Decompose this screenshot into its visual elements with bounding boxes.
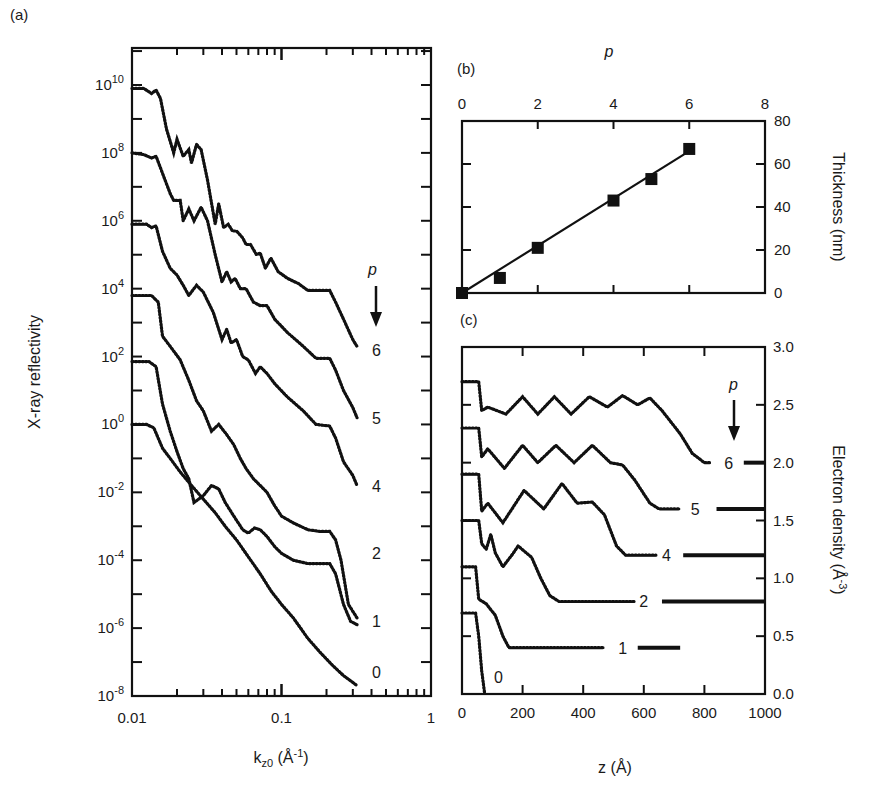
y-tick-label: 10-2: [98, 480, 124, 500]
x-tick-label: 800: [692, 704, 717, 721]
thickness-data: [456, 143, 695, 299]
x-tick-label: 0.1: [271, 709, 292, 726]
y-tick-label: 10-6: [98, 616, 124, 636]
x-tick-label: 200: [510, 704, 535, 721]
y-axis-label-thickness: Thickness (nm): [830, 152, 847, 261]
x-tick-label: 2: [534, 95, 542, 112]
panel-label-c: (c): [460, 311, 478, 328]
curve-label-p4: 4: [372, 478, 381, 495]
density-points-p2: [462, 521, 635, 602]
density-points-p4: [462, 474, 656, 555]
y-tick-label: 100: [101, 412, 124, 432]
y-tick-label: 104: [101, 277, 124, 297]
curve-label-p2: 2: [372, 545, 381, 562]
reflectivity-data-p4: [132, 224, 357, 485]
reflectivity-curve-p5: [132, 153, 357, 418]
data-point-square: [683, 143, 695, 155]
x-axis-label-p: p: [604, 43, 614, 60]
y-tick-label: 102: [101, 345, 124, 365]
x-tick-label: 0: [458, 95, 466, 112]
panel-b-frame: [462, 121, 765, 293]
panel-label-b: (b): [457, 60, 475, 77]
panel-a-reflectivity-plot: (a) 654210 101010810610410210010-210-410…: [10, 6, 435, 769]
y-tick-label: 1010: [95, 73, 124, 93]
y-tick-label: 0.5: [773, 627, 794, 644]
reflectivity-data-p1: [132, 362, 357, 625]
panel-c-electron-density-plot: (c) 654210 020040060080010000.00.51.01.5…: [458, 311, 849, 776]
reflectivity-curve-p4: [132, 224, 357, 485]
data-point-square: [608, 195, 620, 207]
data-point-square: [645, 173, 657, 185]
x-axis-label-kz0: kz0 (Å-1): [253, 747, 308, 769]
y-tick-label: 2.5: [773, 396, 794, 413]
y-tick-label: 2.0: [773, 454, 794, 471]
y-axis-label-electron-density: Electron density (Å-3): [830, 445, 849, 594]
data-point-square: [494, 272, 506, 284]
y-tick-label: 60: [774, 155, 791, 172]
x-axis-label-z: z (Å): [598, 758, 632, 776]
y-tick-label: 1.5: [773, 512, 794, 529]
x-tick-label: 600: [631, 704, 656, 721]
y-tick-label: 108: [101, 141, 124, 161]
curve-label-p0: 0: [372, 664, 381, 681]
y-tick-label: 20: [774, 241, 791, 258]
profile-label-p5: 5: [691, 501, 700, 518]
x-tick-label: 4: [609, 95, 617, 112]
profile-label-p1: 1: [618, 640, 627, 657]
panel-a-legend: p: [367, 261, 382, 327]
panel-a-ticks: 101010810610410210010-210-410-610-80.010…: [95, 48, 435, 726]
x-tick-label: 400: [571, 704, 596, 721]
panel-label-a: (a): [10, 6, 28, 23]
down-arrow-icon: [370, 286, 382, 327]
figure: (a) 654210 101010810610410210010-210-410…: [0, 0, 888, 803]
x-tick-label: 0: [458, 704, 466, 721]
y-tick-label: 0: [774, 284, 782, 301]
linear-fit-line: [462, 151, 689, 293]
profile-label-p0: 0: [494, 669, 503, 686]
reflectivity-curve-p1: [132, 362, 357, 625]
reflectivity-curves: 654210: [132, 88, 381, 685]
y-tick-label: 80: [774, 112, 791, 129]
panel-c-ticks: 020040060080010000.00.51.01.52.02.53.0: [458, 338, 794, 721]
x-tick-label: 1000: [748, 704, 781, 721]
y-tick-label: 10-8: [98, 684, 124, 704]
y-tick-label: 40: [774, 198, 791, 215]
reflectivity-data-p5: [132, 153, 357, 418]
x-tick-label: 6: [685, 95, 693, 112]
legend-p-symbol-c: p: [728, 376, 738, 393]
data-point-square: [532, 242, 544, 254]
x-tick-label: 0.01: [117, 709, 146, 726]
y-tick-label: 106: [101, 209, 124, 229]
panel-c-legend: p: [728, 376, 740, 441]
curve-label-p6: 6: [372, 342, 381, 359]
legend-p-symbol: p: [367, 261, 377, 278]
reflectivity-data-p2: [132, 296, 357, 618]
density-profile-p1: [462, 567, 604, 648]
density-points-p1: [462, 567, 604, 648]
electron-density-profiles: 654210: [462, 382, 765, 694]
reflectivity-curve-p2: [132, 296, 357, 618]
curve-label-p1: 1: [372, 613, 381, 630]
panel-b-thickness-plot: (b) p 02468020406080 Thickness (nm): [456, 43, 847, 301]
reflectivity-data-p6: [132, 88, 357, 346]
density-points-p0: [462, 613, 485, 694]
y-tick-label: 10-4: [98, 548, 124, 568]
down-arrow-icon: [728, 400, 740, 441]
y-tick-label: 1.0: [773, 569, 794, 586]
y-tick-label: 3.0: [773, 338, 794, 355]
y-tick-label: 0.0: [773, 685, 794, 702]
profile-label-p4: 4: [662, 547, 671, 564]
profile-label-p6: 6: [724, 455, 733, 472]
profile-label-p2: 2: [639, 593, 648, 610]
x-tick-label: 1: [427, 709, 435, 726]
curve-label-p5: 5: [372, 410, 381, 427]
y-axis-label-reflectivity: X-ray reflectivity: [26, 315, 43, 429]
panel-b-ticks: 02468020406080: [458, 95, 791, 301]
x-tick-label: 8: [761, 95, 769, 112]
